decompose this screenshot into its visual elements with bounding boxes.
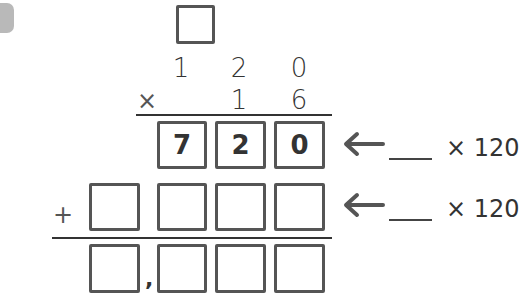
partial-product-2-box[interactable]: [89, 183, 140, 231]
annotation-label: × 120: [446, 196, 520, 222]
carry-box[interactable]: [176, 5, 215, 44]
multiplier-blank[interactable]: [389, 219, 432, 221]
result-box[interactable]: [89, 244, 140, 293]
partial-product-2-box[interactable]: [157, 183, 207, 231]
multiplicand-digit: 0: [284, 53, 314, 83]
multiplier-digit: 6: [284, 85, 314, 115]
problem-number-badge: [0, 3, 14, 33]
thousands-separator: ,: [145, 266, 153, 291]
times-symbol: ×: [137, 88, 157, 114]
result-box[interactable]: [274, 244, 325, 293]
result-box[interactable]: [215, 244, 266, 293]
plus-symbol: +: [53, 202, 73, 228]
annotation-label: × 120: [446, 135, 520, 161]
partial-product-1-box[interactable]: 2: [215, 121, 266, 169]
partial-product-2-box[interactable]: [274, 183, 325, 231]
multiplier-digit: 1: [224, 85, 254, 115]
left-arrow-icon: [341, 131, 385, 157]
partial-product-1-box[interactable]: 7: [157, 121, 207, 169]
left-arrow-icon: [341, 192, 385, 218]
multiplicand-digit: 2: [224, 53, 254, 83]
multiplication-line: [136, 114, 332, 116]
multiplicand-digit: 1: [166, 53, 196, 83]
sum-line: [52, 237, 332, 239]
multiplier-blank[interactable]: [389, 158, 432, 160]
result-box[interactable]: [157, 244, 207, 293]
partial-product-1-box[interactable]: 0: [274, 121, 325, 169]
partial-product-2-box[interactable]: [215, 183, 266, 231]
